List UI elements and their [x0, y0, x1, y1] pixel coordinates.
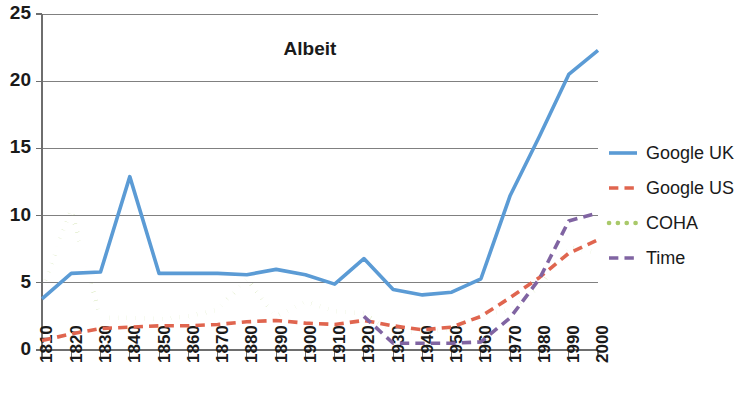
x-tick-label: 1980	[535, 325, 554, 363]
x-tick-label: 1810	[37, 325, 56, 363]
legend-label-google-us: Google US	[646, 178, 734, 198]
y-tick-label: 5	[20, 271, 31, 292]
gridlines	[42, 14, 598, 350]
x-tick-label: 1900	[301, 325, 320, 363]
y-axis-tick-labels: 0510152025	[10, 2, 32, 359]
x-tick-label: 1820	[67, 325, 86, 363]
x-tick-label: 1830	[96, 325, 115, 363]
x-tick-label: 1890	[272, 325, 291, 363]
legend-label-google-uk: Google UK	[646, 143, 734, 163]
chart-legend: Google UKGoogle USCOHATime	[609, 143, 734, 268]
y-tick-label: 20	[10, 69, 31, 90]
series-line-google-uk	[42, 50, 598, 299]
legend-label-time: Time	[646, 248, 685, 268]
x-tick-label: 1840	[125, 325, 144, 363]
x-tick-label: 1880	[242, 325, 261, 363]
x-tick-label: 1990	[564, 325, 583, 363]
data-series	[42, 50, 598, 343]
x-axis-tick-labels: 1810182018301840185018601870188018901900…	[37, 325, 612, 363]
chart-title: Albeit	[284, 38, 337, 59]
y-tick-label: 10	[10, 204, 31, 225]
x-tick-label: 1970	[506, 325, 525, 363]
legend-label-coha: COHA	[646, 213, 698, 233]
x-tick-label: 1850	[155, 325, 174, 363]
x-tick-label: 1910	[330, 325, 349, 363]
x-tick-label: 1860	[184, 325, 203, 363]
line-chart: 0510152025 18101820183018401850186018701…	[0, 0, 735, 411]
chart-container: 0510152025 18101820183018401850186018701…	[0, 0, 735, 411]
y-tick-label: 25	[10, 2, 32, 23]
y-tick-label: 0	[20, 338, 31, 359]
y-tick-label: 15	[10, 136, 32, 157]
x-tick-label: 2000	[593, 325, 612, 363]
x-tick-label: 1870	[213, 325, 232, 363]
x-tick-label: 1920	[359, 325, 378, 363]
